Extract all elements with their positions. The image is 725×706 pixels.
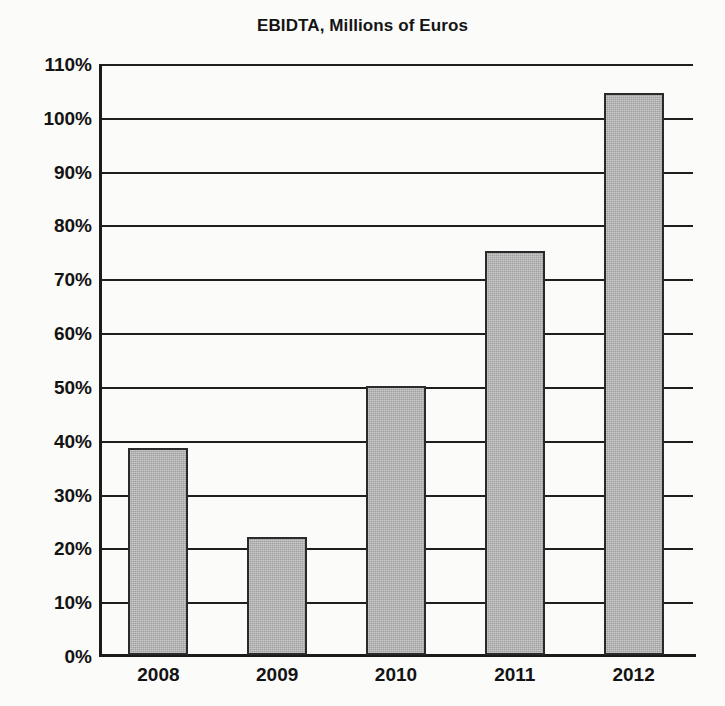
x-tick-label-2009: 2009 [256, 664, 298, 686]
x-tick-label-2011: 2011 [494, 664, 535, 686]
plot-area [99, 65, 693, 657]
bar-2011 [485, 251, 545, 655]
bar-2012 [604, 93, 664, 655]
bar-2009 [247, 537, 307, 655]
x-tick-label-2010: 2010 [375, 664, 417, 686]
y-tick-label-60: 60% [6, 323, 92, 345]
bar-chart-figure: EBIDTA, Millions of Euros 0%10%20%30%40%… [0, 0, 725, 706]
y-tick-label-110: 110% [6, 54, 92, 76]
y-tick-label-80: 80% [6, 215, 92, 237]
y-tick-label-0: 0% [6, 646, 92, 668]
y-tick-label-70: 70% [6, 269, 92, 291]
x-tick-label-2012: 2012 [612, 664, 654, 686]
y-tick-label-20: 20% [6, 538, 92, 560]
y-tick-label-90: 90% [6, 162, 92, 184]
y-tick-label-100: 100% [6, 108, 92, 130]
x-tick-label-2008: 2008 [137, 664, 179, 686]
bar-2010 [366, 386, 426, 655]
y-axis-tick-labels: 0%10%20%30%40%50%60%70%80%90%100%110% [0, 65, 92, 657]
bars-group [99, 65, 693, 655]
y-tick-label-30: 30% [6, 485, 92, 507]
chart-title: EBIDTA, Millions of Euros [0, 16, 725, 36]
y-tick-label-50: 50% [6, 377, 92, 399]
bar-2008 [128, 448, 188, 655]
x-axis-tick-labels: 20082009201020112012 [99, 664, 693, 698]
y-tick-label-40: 40% [6, 431, 92, 453]
y-tick-label-10: 10% [6, 592, 92, 614]
